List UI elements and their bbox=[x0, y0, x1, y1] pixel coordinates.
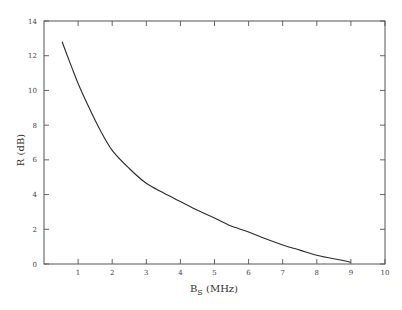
tick-label: 10 bbox=[28, 87, 37, 95]
tick-label: 1 bbox=[76, 269, 80, 277]
tick-label: 8 bbox=[33, 122, 37, 130]
tick-label: 9 bbox=[349, 269, 353, 277]
tick-label: 2 bbox=[110, 269, 114, 277]
line-chart: 12345678910 02468101214 BS (MHz) R (dB) bbox=[0, 0, 402, 310]
tick-label: 4 bbox=[178, 269, 183, 277]
tick-label: 10 bbox=[381, 269, 390, 277]
tick-label: 3 bbox=[144, 269, 148, 277]
plot-frame bbox=[44, 21, 385, 264]
tick-label: 2 bbox=[33, 226, 37, 234]
tick-label: 12 bbox=[28, 52, 37, 60]
tick-label: 8 bbox=[315, 269, 319, 277]
x-axis-ticks: 12345678910 bbox=[76, 21, 390, 277]
tick-label: 6 bbox=[33, 156, 38, 164]
tick-label: 0 bbox=[33, 261, 37, 269]
x-axis-label: BS (MHz) bbox=[190, 283, 238, 297]
tick-label: 7 bbox=[280, 269, 284, 277]
tick-label: 6 bbox=[246, 269, 251, 277]
y-axis-ticks: 02468101214 bbox=[28, 18, 385, 269]
tick-label: 4 bbox=[33, 191, 38, 199]
tick-label: 14 bbox=[28, 18, 37, 26]
y-axis-label: R (dB) bbox=[15, 134, 26, 166]
tick-label: 5 bbox=[212, 269, 216, 277]
data-line-r bbox=[62, 42, 351, 262]
